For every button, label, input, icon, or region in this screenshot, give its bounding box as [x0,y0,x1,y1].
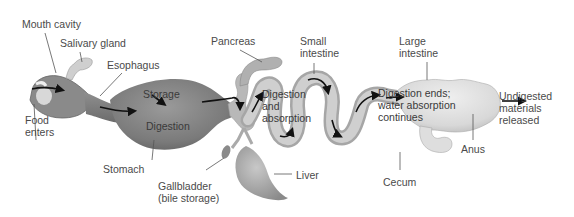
label-stomach: Stomach [103,163,144,175]
label-esophagus: Esophagus [107,59,160,71]
label-anus: Anus [461,143,485,155]
salivary-gland-shape [66,58,92,80]
label-digestion-ends-2: water absorption [378,99,456,111]
label-small-intestine-1: Small [300,35,326,47]
label-storage: Storage [143,88,180,100]
label-gallbladder-1: Gallbladder [158,180,212,192]
label-pancreas: Pancreas [211,35,255,47]
label-undigested-2: materials [499,102,542,114]
label-digestion-ends-3: continues [378,111,423,123]
digestive-diagram: Mouth cavity Salivary gland Esophagus Fo… [0,0,574,217]
label-gallbladder-2: (bile storage) [158,192,219,204]
label-food-enters-2: enters [25,126,54,138]
label-large-intestine-1: Large [399,35,426,47]
label-undigested-1: Undigested [499,90,552,102]
label-digestion-absorption-2: and [262,100,280,112]
label-food-enters-1: Food [25,114,49,126]
label-large-intestine-2: intestine [399,47,438,59]
label-liver: Liver [296,169,319,181]
label-digestion-absorption-1: Digestion [262,88,306,100]
digestive-tract-illustration [0,0,574,217]
label-digestion-absorption-3: absorption [262,112,311,124]
label-digestion-ends-1: Digestion ends; [378,87,450,99]
label-undigested-3: released [499,114,539,126]
label-mouth-cavity: Mouth cavity [22,18,81,30]
label-salivary-gland: Salivary gland [60,37,126,49]
label-cecum: Cecum [383,176,416,188]
label-small-intestine-2: intestine [300,47,339,59]
liver-shape [235,146,288,200]
label-digestion: Digestion [146,120,190,132]
mouth-cavity-shape [30,76,90,118]
